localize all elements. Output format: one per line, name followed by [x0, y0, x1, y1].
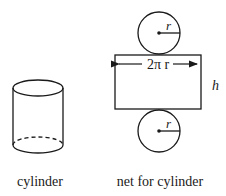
top-radius-label: r [166, 18, 172, 33]
cylinder-figure [13, 80, 63, 153]
net-caption: net for cylinder [117, 174, 204, 189]
cylinder-caption: cylinder [17, 174, 63, 189]
net-bottom-circle: r [138, 110, 180, 152]
net-rectangle: 2π r h [115, 55, 219, 109]
cylinder-top-ellipse [13, 80, 63, 96]
cylinder-bottom-back-dashed [13, 137, 63, 145]
cylinder-net-diagram: r 2π r h r cylinder net for cylinder [0, 0, 226, 196]
width-label: 2π r [147, 57, 170, 72]
height-label: h [212, 78, 219, 93]
bottom-radius-label: r [166, 116, 172, 131]
net-top-circle: r [138, 12, 180, 54]
cylinder-bottom-front [13, 145, 63, 153]
